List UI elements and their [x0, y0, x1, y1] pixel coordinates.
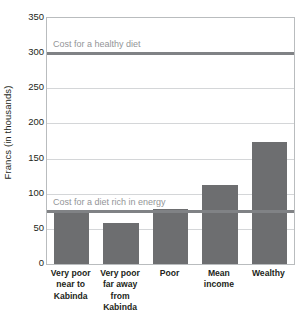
x-axis-category-label: Wealthy: [244, 268, 293, 279]
x-axis-category-label: Very poornear toKabinda: [46, 268, 95, 302]
bar: [202, 185, 238, 264]
bar: [103, 223, 139, 264]
y-axis-tick-label: 200: [16, 118, 44, 128]
gridline: [47, 88, 294, 89]
x-axis-category-label: Meanincome: [194, 268, 243, 291]
y-axis-tick-labels: 050100150200250300350: [14, 0, 44, 313]
y-axis-tick-label: 50: [16, 223, 44, 233]
bar: [153, 209, 189, 264]
y-axis-tick-label: 350: [16, 12, 44, 22]
y-axis-tick-label: 0: [16, 258, 44, 268]
plot-area: Cost for a healthy dietCost for a diet r…: [46, 17, 295, 265]
bar: [54, 213, 90, 264]
x-axis-category-labels: Very poornear toKabindaVery poorfar away…: [46, 268, 295, 313]
reference-line: [47, 210, 294, 213]
x-axis-category-label: Poor: [145, 268, 194, 279]
gridline: [47, 123, 294, 124]
y-axis-title-text: Francs (in thousands): [3, 86, 14, 180]
bar: [252, 142, 288, 264]
y-axis-tick-label: 300: [16, 47, 44, 57]
x-axis-category-label: Very poorfar awayfrom Kabinda: [95, 268, 144, 313]
y-axis-tick-label: 100: [16, 188, 44, 198]
reference-line-label: Cost for a healthy diet: [53, 39, 141, 49]
bar-chart-figure: Francs (in thousands) 050100150200250300…: [0, 0, 305, 313]
reference-line-label: Cost for a diet rich in energy: [53, 197, 166, 207]
y-axis-tick-label: 150: [16, 153, 44, 163]
y-axis-tick-label: 250: [16, 83, 44, 93]
reference-line: [47, 52, 294, 55]
